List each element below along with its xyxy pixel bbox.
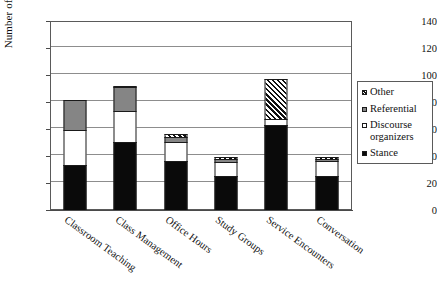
legend-label: Discourse organizers (370, 119, 429, 142)
bar-segment-discourse-organizers (215, 162, 238, 177)
bar-slot (100, 21, 150, 210)
y-tick-0: 0 (391, 205, 437, 216)
bar-segment-discourse-organizers (114, 111, 137, 143)
bar-segment-discourse-organizers (64, 130, 87, 166)
stacked-bar[interactable] (315, 157, 338, 210)
legend-swatch-icon (362, 107, 367, 112)
legend-item[interactable]: Referential (362, 103, 429, 115)
bar-segment-referential (64, 100, 87, 131)
x-tick-label: Office Hours (163, 214, 214, 255)
stacked-bar[interactable] (114, 86, 137, 210)
bar-segment-discourse-organizers (315, 161, 338, 177)
legend-label: Referential (370, 103, 417, 115)
y-tick-20: 20 (391, 178, 437, 189)
bar-segment-stance (265, 125, 288, 211)
y-axis-title: Number of bundles (2, 0, 14, 60)
bar-slot (50, 21, 100, 210)
bar-segment-referential (114, 87, 137, 111)
stacked-bar-chart: Number of bundles 020406080100120140 Cla… (0, 0, 437, 298)
bar-segment-discourse-organizers (164, 142, 187, 162)
legend-swatch-icon (362, 123, 367, 128)
y-tick-120: 120 (391, 43, 437, 54)
stacked-bar[interactable] (215, 157, 238, 210)
chart-legend: OtherReferentialDiscourse organizersStan… (357, 81, 433, 164)
bar-slot (201, 21, 251, 210)
bar-segment-other (265, 79, 288, 120)
y-tick-140: 140 (391, 16, 437, 27)
legend-swatch-icon (362, 90, 367, 95)
legend-item[interactable]: Stance (362, 147, 429, 159)
bar-slot (151, 21, 201, 210)
y-tick-100: 100 (391, 70, 437, 81)
legend-swatch-icon (362, 151, 367, 156)
bar-segment-stance (114, 142, 137, 211)
x-tick-label: Study Groups (214, 214, 267, 257)
legend-label: Other (370, 86, 394, 98)
legend-label: Stance (370, 147, 398, 159)
bar-segment-stance (215, 176, 238, 211)
bar-segment-stance (64, 165, 87, 211)
bar-segment-stance (164, 161, 187, 211)
bar-segment-stance (315, 176, 338, 211)
stacked-bar[interactable] (164, 134, 187, 210)
x-tick-label: Conversation (314, 214, 366, 256)
stacked-bar[interactable] (64, 100, 87, 210)
x-axis-line (50, 210, 353, 211)
stacked-bar[interactable] (265, 79, 288, 210)
legend-item[interactable]: Other (362, 86, 429, 98)
bar-slot (302, 21, 352, 210)
bar-group (50, 21, 352, 210)
bar-slot (251, 21, 301, 210)
legend-item[interactable]: Discourse organizers (362, 119, 429, 142)
